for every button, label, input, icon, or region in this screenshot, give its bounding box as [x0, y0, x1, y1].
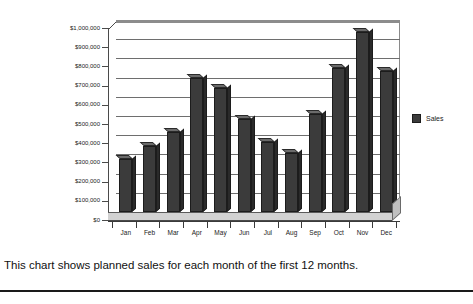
y-axis-tick — [102, 124, 109, 125]
bar[interactable] — [380, 67, 393, 212]
y-axis-tick — [102, 105, 109, 106]
bar[interactable] — [285, 149, 298, 212]
x-axis-tick — [254, 221, 255, 228]
chart-caption: This chart shows planned sales for each … — [4, 258, 464, 273]
chart-floor — [108, 212, 400, 221]
bar-face — [238, 119, 251, 212]
x-axis-tick — [301, 221, 302, 228]
bar-top-facet — [140, 142, 157, 146]
y-axis-labels: $1,000,000$900,000$800,000$700,000$600,0… — [28, 0, 100, 248]
bar-face — [143, 146, 156, 212]
bar-face — [285, 153, 298, 212]
bar[interactable] — [167, 128, 180, 212]
bar-side-facet — [274, 138, 278, 212]
x-axis-tick — [278, 221, 279, 228]
bar-side-facet — [369, 28, 373, 212]
bar-side-facet — [203, 74, 207, 212]
y-axis-tick — [102, 47, 109, 48]
bar-side-facet — [227, 85, 231, 212]
bar-side-facet — [132, 156, 136, 212]
bar[interactable] — [261, 138, 274, 212]
bar-face — [356, 32, 369, 212]
bar-face — [119, 159, 132, 212]
sales-bar-chart: $1,000,000$900,000$800,000$700,000$600,0… — [0, 0, 473, 248]
bar-top-facet — [329, 64, 346, 68]
x-axis-tick-label: Mar — [161, 228, 185, 237]
y-axis-tick — [102, 28, 109, 29]
x-axis-tick-label: Aug — [280, 228, 304, 237]
bar-side-facet — [322, 110, 326, 212]
x-axis-tick-label: Oct — [327, 228, 351, 237]
x-axis-tick — [112, 221, 113, 228]
bar-side-facet — [180, 129, 184, 212]
bar-top-facet — [258, 138, 275, 142]
y-axis-tick-label: $200,000 — [30, 178, 100, 185]
x-axis-tick — [207, 221, 208, 228]
x-axis-tick-label: May — [209, 228, 233, 237]
bar[interactable] — [214, 84, 227, 212]
x-axis-tick-label: Jan — [114, 228, 138, 237]
y-axis-tick — [102, 143, 109, 144]
bar-face — [309, 114, 322, 212]
bar[interactable] — [238, 115, 251, 212]
bar-top-facet — [187, 74, 204, 78]
x-axis-tick-label: Sep — [303, 228, 327, 237]
x-axis-tick — [136, 221, 137, 228]
y-axis-tick-label: $100,000 — [30, 197, 100, 204]
y-axis-tick-label: $500,000 — [30, 121, 100, 128]
y-axis-tick-label: $600,000 — [30, 101, 100, 108]
y-axis-tick — [102, 201, 109, 202]
x-axis-tick-label: Dec — [374, 228, 398, 237]
bar-side-facet — [345, 64, 349, 212]
legend-swatch-sales — [412, 114, 421, 123]
y-axis-tick — [102, 162, 109, 163]
y-axis-tick-label: $0 — [30, 217, 100, 224]
x-axis-tick — [159, 221, 160, 228]
bar-side-facet — [393, 67, 397, 212]
x-axis-tick — [183, 221, 184, 228]
y-axis-tick-label: $700,000 — [30, 82, 100, 89]
bar-face — [261, 142, 274, 212]
bar-face — [190, 78, 203, 212]
bar[interactable] — [119, 155, 132, 212]
y-axis-tick-label: $800,000 — [30, 63, 100, 70]
x-axis-labels: JanFebMarAprMayJunJulAugSepOctNovDec — [108, 221, 408, 245]
bar-side-facet — [251, 115, 255, 212]
legend-label-sales: Sales — [426, 114, 444, 123]
y-axis-tick-label: $400,000 — [30, 140, 100, 147]
y-axis-tick — [102, 66, 109, 67]
bar-face — [214, 88, 227, 212]
x-axis-tick-label: Jul — [256, 228, 280, 237]
chart-legend: Sales — [412, 114, 444, 123]
bar-face — [332, 68, 345, 212]
bar[interactable] — [332, 64, 345, 212]
chart-floor-face — [108, 212, 392, 221]
bar-series-sales — [108, 20, 400, 220]
bar[interactable] — [309, 110, 322, 212]
y-axis-tick-label: $1,000,000 — [30, 25, 100, 32]
bar-side-facet — [156, 142, 160, 212]
x-axis-tick — [349, 221, 350, 228]
x-axis-tick — [372, 221, 373, 228]
x-axis-tick-label: Apr — [185, 228, 209, 237]
y-axis-tick — [102, 182, 109, 183]
x-axis-tick-label: Nov — [351, 228, 375, 237]
y-axis-tick — [102, 86, 109, 87]
y-axis-tick-label: $900,000 — [30, 44, 100, 51]
chart-page: $1,000,000$900,000$800,000$700,000$600,0… — [0, 0, 473, 304]
bar[interactable] — [143, 142, 156, 212]
page-divider — [0, 290, 473, 292]
x-axis-tick-label: Jun — [232, 228, 256, 237]
bar-side-facet — [298, 150, 302, 212]
y-axis-tick-label: $300,000 — [30, 159, 100, 166]
y-axis-tick — [102, 220, 109, 221]
x-axis-tick-label: Feb — [138, 228, 162, 237]
bar-face — [380, 71, 393, 212]
bar[interactable] — [356, 28, 369, 212]
x-axis-tick — [396, 221, 397, 228]
x-axis-tick — [230, 221, 231, 228]
bar-face — [167, 132, 180, 212]
bar[interactable] — [190, 74, 203, 212]
x-axis-tick — [325, 221, 326, 228]
